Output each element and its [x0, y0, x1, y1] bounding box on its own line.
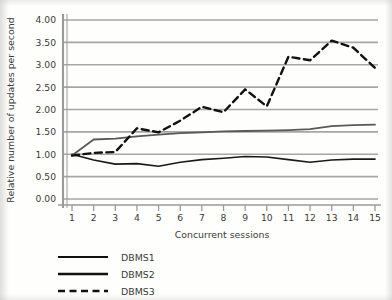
- x-axis-tick-labels: 123456789101112131415: [69, 212, 381, 223]
- legend-label-dbms3: DBMS3: [121, 286, 155, 297]
- chart-legend: DBMS1DBMS2DBMS3: [58, 252, 155, 297]
- legend-label-dbms1: DBMS1: [121, 252, 155, 263]
- x-tick-label: 11: [283, 212, 295, 223]
- x-tick-label: 8: [221, 212, 227, 223]
- x-tick-label: 1: [69, 212, 75, 223]
- x-tick-label: 15: [369, 212, 381, 223]
- y-tick-label: 1.50: [36, 126, 57, 137]
- y-tick-label: 3.50: [36, 37, 57, 48]
- x-tick-label: 6: [177, 212, 183, 223]
- y-tick-label: 1.00: [36, 149, 57, 160]
- y-tick-label: 0.00: [36, 193, 57, 204]
- data-series-group: [72, 41, 375, 167]
- x-tick-label: 7: [199, 212, 205, 223]
- y-tick-label: 2.00: [36, 104, 57, 115]
- y-tick-label: 0.50: [36, 171, 57, 182]
- y-axis-tick-labels: 0.000.501.001.502.002.503.003.504.00: [36, 14, 57, 204]
- gridlines-group: [64, 20, 378, 199]
- series-line-dbms1: [72, 154, 375, 166]
- x-axis-title: Concurrent sessions: [175, 229, 270, 240]
- legend-label-dbms2: DBMS2: [121, 269, 155, 280]
- x-tick-label: 12: [304, 212, 316, 223]
- x-tick-label: 4: [134, 212, 140, 223]
- chart-figure: 0.000.501.001.502.002.503.003.504.00 123…: [0, 0, 392, 300]
- x-tick-label: 10: [261, 212, 273, 223]
- x-tick-label: 13: [326, 212, 338, 223]
- line-chart-canvas: 0.000.501.001.502.002.503.003.504.00 123…: [0, 0, 392, 300]
- x-tick-label: 5: [156, 212, 162, 223]
- x-axis: [58, 205, 381, 211]
- x-tick-label: 2: [91, 212, 97, 223]
- x-tick-label: 3: [112, 212, 118, 223]
- y-tick-label: 3.00: [36, 59, 57, 70]
- x-tick-label: 14: [348, 212, 360, 223]
- x-tick-label: 9: [242, 212, 248, 223]
- y-tick-label: 2.50: [36, 82, 57, 93]
- y-axis-title: Relative number of updates per second: [5, 17, 16, 202]
- y-tick-label: 4.00: [36, 14, 57, 25]
